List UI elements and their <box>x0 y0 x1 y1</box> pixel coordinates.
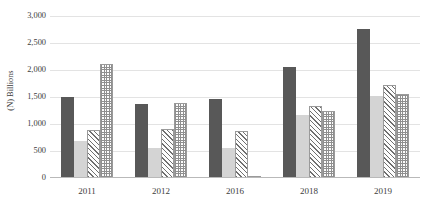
bar-series-3-2011[interactable] <box>87 130 100 178</box>
bar-series-1-2011[interactable] <box>61 97 74 178</box>
bar-series-2-2018[interactable] <box>296 115 309 178</box>
bar-series-4-2019[interactable] <box>396 94 409 179</box>
bar-series-1-2018[interactable] <box>283 67 296 179</box>
x-tick-label-2019: 2019 <box>346 186 420 202</box>
y-tick-label: 1,500 <box>27 93 46 101</box>
plot-area <box>50 16 420 178</box>
bar-series-4-2012[interactable] <box>174 103 187 178</box>
bar-series-2-2012[interactable] <box>148 148 161 179</box>
bar-group-2018 <box>272 16 346 178</box>
bar-series-3-2016[interactable] <box>235 131 248 178</box>
x-tick-label-2011: 2011 <box>50 186 124 202</box>
y-axis-tick-labels: 05001,0001,5002,0002,5003,000 <box>8 0 46 209</box>
x-tick-label-2016: 2016 <box>198 186 272 202</box>
bar-series-1-2016[interactable] <box>209 99 222 178</box>
bar-chart-figure: (N) Billions 05001,0001,5002,0002,5003,0… <box>0 0 424 209</box>
bar-series-2-2019[interactable] <box>370 96 383 178</box>
bar-series-2-2016[interactable] <box>222 148 235 178</box>
bar-group-2011 <box>50 16 124 178</box>
bar-series-4-2011[interactable] <box>100 64 113 178</box>
y-tick-label: 1,000 <box>27 120 46 128</box>
x-axis-line <box>50 177 420 178</box>
bar-series-1-2012[interactable] <box>135 104 148 178</box>
bar-groups <box>50 16 420 178</box>
x-axis-tick-labels: 20112012201620182019 <box>50 186 420 202</box>
x-tick-label-2012: 2012 <box>124 186 198 202</box>
y-tick-label: 0 <box>42 174 46 182</box>
bar-series-3-2019[interactable] <box>383 85 396 178</box>
y-tick-label: 2,500 <box>27 39 46 47</box>
y-tick-label: 3,000 <box>27 12 46 20</box>
bar-group-2012 <box>124 16 198 178</box>
bar-series-2-2011[interactable] <box>74 141 87 178</box>
bar-group-2019 <box>346 16 420 178</box>
y-tick-label: 500 <box>33 147 46 155</box>
bar-series-3-2018[interactable] <box>309 106 322 178</box>
y-tick-label: 2,000 <box>27 66 46 74</box>
bar-series-3-2012[interactable] <box>161 129 174 178</box>
bar-series-4-2018[interactable] <box>322 111 335 178</box>
x-tick-label-2018: 2018 <box>272 186 346 202</box>
bar-group-2016 <box>198 16 272 178</box>
bar-series-1-2019[interactable] <box>357 29 370 178</box>
